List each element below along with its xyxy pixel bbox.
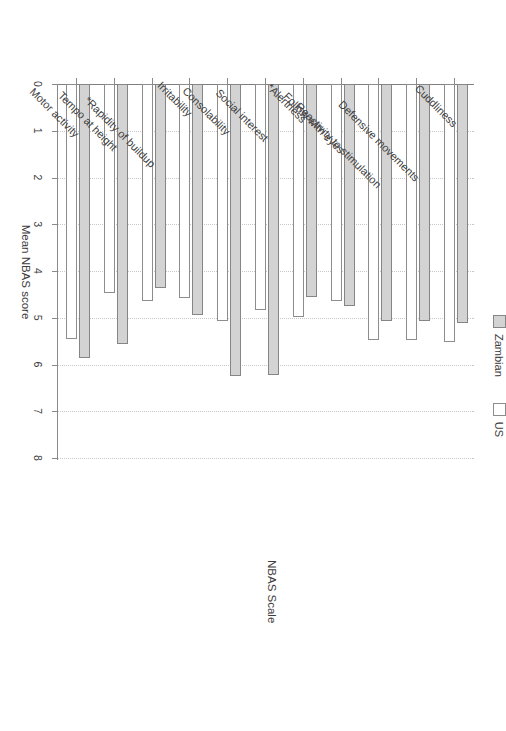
value-axis-tick [52,318,58,319]
bar-group [140,84,166,458]
category-axis-tick [303,78,304,84]
value-axis-tick [52,365,58,366]
value-axis-tick-label: 4 [32,256,44,286]
legend-item-zambian: Zambian [493,315,506,377]
bar-group [64,84,90,458]
legend-swatch-zambian [493,315,506,328]
plot-area: 012345678 Motor activityTempo at height*… [58,84,474,458]
nbas-bar-chart: Zambian US 012345678 Motor activityTempo… [0,0,506,731]
bar-zambian [419,84,430,321]
value-axis-tick-label: 3 [32,209,44,239]
value-axis-tick-label: 7 [32,396,44,426]
bar-zambian [381,84,392,321]
value-axis-tick [52,178,58,179]
legend-label-us: US [494,422,506,437]
bar-zambian [155,84,166,288]
bar-us [331,84,342,301]
bar-us [368,84,379,340]
legend-swatch-us [493,403,506,416]
gridline [58,458,474,460]
value-axis-tick-label: 8 [32,443,44,473]
bar-us [142,84,153,301]
bar-group [442,84,468,458]
category-axis-tick [189,78,190,84]
category-axis-tick [265,78,266,84]
category-axis-tick [227,78,228,84]
legend-item-us: US [493,403,506,437]
rotated-figure-wrapper: Zambian US 012345678 Motor activityTempo… [0,0,506,731]
bar-zambian [192,84,203,315]
bar-group [291,84,317,458]
value-axis-tick-label: 5 [32,303,44,333]
legend-label-zambian: Zambian [494,334,506,377]
value-axis-tick-label: 6 [32,350,44,380]
bar-us [255,84,266,310]
value-axis-tick-label: 1 [32,116,44,146]
bar-group [215,84,241,458]
value-axis-tick [52,411,58,412]
category-axis-tick [341,78,342,84]
value-axis-tick [52,131,58,132]
category-axis-tick [76,78,77,84]
bar-group [404,84,430,458]
category-axis-tick [114,78,115,84]
category-axis-tick [454,78,455,84]
category-axis-title: NBAS Scale [266,560,278,623]
category-axis-tick [378,78,379,84]
bar-zambian [268,84,279,375]
value-axis-tick-label: 2 [32,163,44,193]
chart-legend: Zambian US [493,315,506,437]
value-axis-title: Mean NBAS score [20,84,32,460]
value-axis-tick [52,458,58,459]
value-axis-tick [52,271,58,272]
category-axis-tick [152,78,153,84]
value-axis-tick [52,84,58,85]
category-axis-tick [416,78,417,84]
value-axis-tick [52,224,58,225]
bar-us [406,84,417,340]
bar-group [177,84,203,458]
